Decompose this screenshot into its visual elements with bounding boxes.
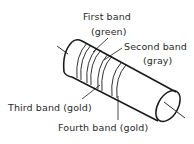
resistor-left-cap xyxy=(64,42,72,72)
band-4-arc-b xyxy=(117,65,126,98)
fourth-band-label: Fourth band (gold) xyxy=(58,123,148,133)
second-band-label: Second band xyxy=(124,42,187,52)
first-band-color-label: (green) xyxy=(91,27,127,37)
resistor-diagram: First band (green) Second band (gray) Th… xyxy=(0,0,194,144)
band-3-arc-a xyxy=(98,54,108,89)
second-band-color-label: (gray) xyxy=(143,56,172,66)
right-lead xyxy=(164,102,185,118)
band-1-arc-a xyxy=(77,43,87,78)
third-band-label: Third band (gold) xyxy=(8,103,92,113)
first-band-label: First band xyxy=(83,12,131,22)
band-2-arc-a xyxy=(87,48,97,83)
resistor-body-bottom-edge xyxy=(64,72,158,121)
